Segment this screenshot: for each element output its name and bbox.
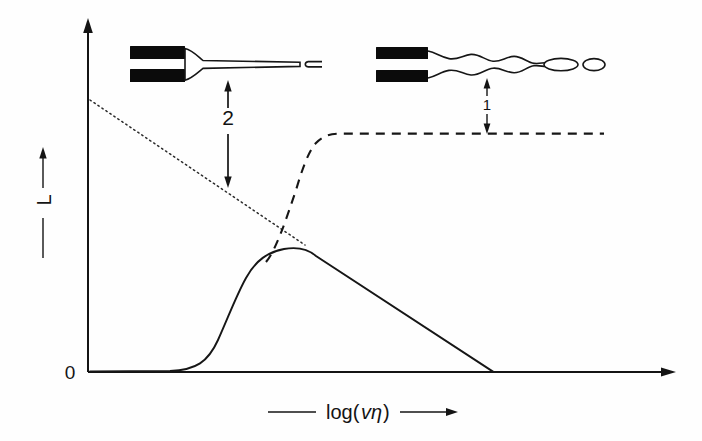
annotation-2-label: 2 [222, 106, 234, 129]
x-axis-title-prefix: log( [326, 401, 360, 423]
y-axis-origin-tick-label: 0 [65, 362, 76, 383]
y-axis-title-group: L [33, 147, 55, 258]
jet-breakup-length-schematic-chart: 0 L log( v η ) [0, 0, 702, 441]
inset-right-droplet-detached [583, 59, 605, 71]
inset-right-nozzle-lower-block [376, 70, 428, 82]
inset-left-jet-body [185, 49, 300, 81]
inset-right-jet-upper-boundary [428, 51, 546, 64]
x-axis-title-suffix: ) [383, 401, 390, 423]
inset-left-nozzle-upper-block [130, 46, 185, 59]
dotted-decay-line [90, 100, 305, 245]
inset-right-jet-lower-boundary [428, 66, 546, 78]
figure-root: 0 L log( v η ) [0, 0, 702, 441]
annotation-1-arrowhead-down-icon [484, 124, 491, 135]
inset-left-nozzle-lower-block [130, 69, 185, 82]
x-axis-title-variable-eta: η [371, 401, 382, 423]
x-axis-title-arrowhead-icon [446, 408, 458, 416]
annotation-1-group: 1 [483, 78, 491, 134]
x-axis-arrowhead-icon [661, 367, 676, 376]
y-axis-title-arrowhead-icon [39, 147, 46, 159]
solid-breakup-length-curve [90, 248, 493, 372]
y-axis-arrowhead-icon [83, 18, 93, 33]
y-axis-title-label: L [33, 194, 55, 205]
inset-right-nozzle-varicose-jet-sketch [376, 47, 605, 82]
annotation-2-group: 2 [222, 80, 234, 188]
dashed-saturation-curve [266, 134, 604, 262]
annotation-2-arrowhead-down-icon [224, 177, 231, 189]
x-axis-title-group: log( v η ) [268, 401, 458, 423]
inset-left-jet-fragment [305, 62, 322, 67]
inset-left-nozzle-smooth-jet-sketch [130, 46, 322, 82]
inset-right-droplet-forming [544, 58, 578, 70]
inset-right-nozzle-upper-block [376, 47, 428, 59]
annotation-1-label: 1 [483, 96, 491, 113]
